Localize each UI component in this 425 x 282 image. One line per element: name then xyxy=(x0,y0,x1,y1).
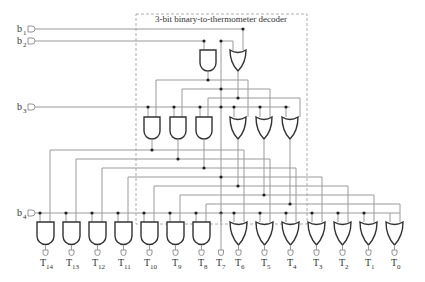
junction-dot xyxy=(284,211,287,214)
junction-dot xyxy=(236,96,239,99)
stage2-output-wires xyxy=(50,117,400,222)
junction-dot xyxy=(284,105,287,108)
junction-dot xyxy=(219,105,222,108)
junction-dot xyxy=(202,166,205,169)
stage2-and-gate xyxy=(196,117,212,139)
output-subscript: 2 xyxy=(345,263,349,271)
output-and-gate-t9 xyxy=(167,222,184,245)
output-or-gate-t2 xyxy=(334,222,351,245)
junction-dot xyxy=(202,39,205,42)
junction-dot xyxy=(236,184,239,187)
junction-dot xyxy=(116,211,119,214)
output-and-gate-t8 xyxy=(193,222,210,245)
output-and-gate-t14 xyxy=(37,222,54,245)
input-wires xyxy=(35,29,400,213)
input-subscript: 4 xyxy=(23,213,27,221)
input-b4: b 4 xyxy=(17,207,35,221)
input-port-icon xyxy=(28,26,35,32)
stage2-or-gate xyxy=(256,117,272,139)
output-subscript: 10 xyxy=(150,263,158,271)
junction-dot xyxy=(362,211,365,214)
output-or-gate-t0 xyxy=(386,222,403,245)
output-subscript: 9 xyxy=(178,263,182,271)
output-and-gate-t12 xyxy=(89,222,106,245)
output-subscript: 1 xyxy=(371,263,375,271)
junction-dot xyxy=(258,211,261,214)
output-and-gate-t13 xyxy=(63,222,80,245)
input-label: b xyxy=(17,35,22,46)
stage2-and-gate xyxy=(170,117,186,139)
junction-dot xyxy=(232,105,235,108)
input-b3: b 3 xyxy=(17,101,35,115)
stage2-or-gate xyxy=(282,117,298,139)
input-label: b xyxy=(17,207,22,218)
input-label: b xyxy=(17,23,22,34)
junction-dot xyxy=(288,202,291,205)
output-subscript: 3 xyxy=(319,263,323,271)
junction-dot xyxy=(219,87,222,90)
junction-dot xyxy=(310,211,313,214)
output-subscript: 4 xyxy=(293,263,297,271)
junction-dot xyxy=(219,39,222,42)
output-or-gate-t1 xyxy=(360,222,377,245)
output-or-gate-t6 xyxy=(230,222,247,245)
junction-dot xyxy=(206,78,209,81)
output-or-gate-t4 xyxy=(282,222,299,245)
input-port-icon xyxy=(28,38,35,44)
junction-dot xyxy=(232,211,235,214)
input-port-icon xyxy=(28,104,35,110)
junction-dot xyxy=(90,211,93,214)
output-subscript: 13 xyxy=(72,263,80,271)
junction-dot xyxy=(172,105,175,108)
junction-dot xyxy=(194,211,197,214)
output-or-gate-t3 xyxy=(308,222,325,245)
input-subscript: 2 xyxy=(23,41,27,49)
output-labels: T14 T13 T12 T11 T10 T9 T8 T7 T6 T5 T4 T3… xyxy=(40,257,401,271)
input-b2: b 2 xyxy=(17,35,35,49)
output-pins xyxy=(43,244,397,256)
stage1-output-wires xyxy=(156,71,300,117)
output-subscript: 7 xyxy=(222,263,226,271)
thermometer-decoder-diagram: 3-bit binary-to-thermometer decoder b 1 … xyxy=(0,0,425,282)
decoder-title: 3-bit binary-to-thermometer decoder xyxy=(155,14,287,24)
input-label: b xyxy=(17,101,22,112)
stage2-and-gate xyxy=(144,117,160,139)
stage1-or-gate xyxy=(230,50,246,71)
output-subscript: 12 xyxy=(98,263,106,271)
junction-dot xyxy=(64,211,67,214)
junction-dot xyxy=(258,105,261,108)
stage2-or-gate xyxy=(230,117,246,139)
junction-dot xyxy=(336,211,339,214)
output-subscript: 8 xyxy=(204,263,208,271)
output-subscript: 0 xyxy=(397,263,401,271)
stage1-and-gate xyxy=(200,50,216,71)
output-subscript: 6 xyxy=(241,263,245,271)
junction-dot xyxy=(38,211,41,214)
input-subscript: 3 xyxy=(23,107,27,115)
junction-dot xyxy=(241,27,244,30)
output-and-gate-t11 xyxy=(115,222,132,245)
junction-dot xyxy=(142,211,145,214)
junction-dot xyxy=(176,157,179,160)
output-or-gate-t5 xyxy=(256,222,273,245)
output-and-gate-t10 xyxy=(141,222,158,245)
output-subscript: 5 xyxy=(267,263,271,271)
junction-dot xyxy=(146,105,149,108)
input-subscript: 1 xyxy=(23,29,27,37)
output-subscript: 11 xyxy=(124,263,131,271)
output-subscript: 14 xyxy=(46,263,54,271)
junction-dot xyxy=(150,148,153,151)
junction-dot xyxy=(262,193,265,196)
junction-dot xyxy=(198,105,201,108)
junction-dot xyxy=(219,175,222,178)
input-port-icon xyxy=(28,210,35,216)
junction-dot xyxy=(168,211,171,214)
